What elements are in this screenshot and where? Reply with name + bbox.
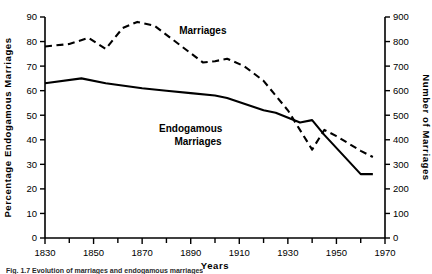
series-lines (45, 22, 373, 174)
left-axis-tick-label: 50 (26, 110, 37, 121)
right-axis-tick-label: 200 (393, 183, 409, 194)
right-axis-tick-label: 800 (393, 36, 409, 47)
series-annotation: Marriages (179, 25, 227, 36)
x-axis-tick-label: 1910 (229, 247, 250, 258)
right-axis-tick-label: 700 (393, 61, 409, 72)
series-annotation: Marriages (174, 136, 222, 147)
figure-caption: Fig. 1.7 Evolution of marriages and endo… (6, 267, 203, 274)
right-axis-tick-label: 300 (393, 159, 409, 170)
x-axis-tick-label: 1950 (326, 247, 347, 258)
left-axis-tick-label: 10 (26, 208, 37, 219)
x-axis-title: Years (201, 260, 229, 271)
left-axis-tick-label: 30 (26, 159, 37, 170)
left-axis-tick-label: 40 (26, 134, 37, 145)
right-axis-tick-label: 500 (393, 110, 409, 121)
right-axis-tick-label: 400 (393, 134, 409, 145)
left-axis: 0102030405060708090 (26, 11, 45, 243)
left-axis-tick-label: 20 (26, 183, 37, 194)
series-annotations: MarriagesEndogamousMarriages (159, 25, 227, 147)
right-axis: 0100200300400500600700800900 (385, 11, 409, 243)
x-axis-tick-label: 1970 (374, 247, 395, 258)
series-annotation: Endogamous (159, 123, 223, 134)
right-axis-title: Number of Marriages (421, 74, 432, 180)
right-axis-tick-label: 0 (393, 232, 398, 243)
x-axis: 18301850187018901910193019501970 (34, 238, 395, 258)
right-axis-tick-label: 900 (393, 11, 409, 22)
left-axis-tick-label: 80 (26, 36, 37, 47)
x-axis-tick-label: 1850 (83, 247, 104, 258)
left-axis-tick-label: 70 (26, 61, 37, 72)
x-axis-tick-label: 1870 (132, 247, 153, 258)
left-axis-tick-label: 0 (32, 232, 37, 243)
left-axis-tick-label: 90 (26, 11, 37, 22)
x-axis-tick-label: 1830 (34, 247, 55, 258)
right-axis-tick-label: 100 (393, 208, 409, 219)
right-axis-tick-label: 600 (393, 85, 409, 96)
x-axis-tick-label: 1890 (180, 247, 201, 258)
left-axis-title: Percentage Endogamous Marriages (2, 37, 13, 217)
left-axis-tick-label: 60 (26, 85, 37, 96)
axis-titles: Percentage Endogamous MarriagesNumber of… (2, 37, 432, 271)
x-axis-tick-label: 1930 (277, 247, 298, 258)
